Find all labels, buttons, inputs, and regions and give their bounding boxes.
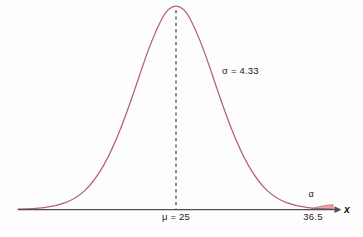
- distribution-chart-svg: [0, 0, 363, 237]
- alpha-area-label: α: [308, 190, 313, 199]
- threshold-tick-label: 36.5: [303, 212, 322, 222]
- normal-distribution-figure: σ = 4.33 μ = 25 36.5 α x: [0, 0, 363, 237]
- mean-tick-label: μ = 25: [162, 212, 190, 222]
- sigma-annotation-label: σ = 4.33: [222, 66, 259, 76]
- x-axis-arrow-icon: [335, 206, 342, 213]
- x-axis-label: x: [344, 204, 350, 215]
